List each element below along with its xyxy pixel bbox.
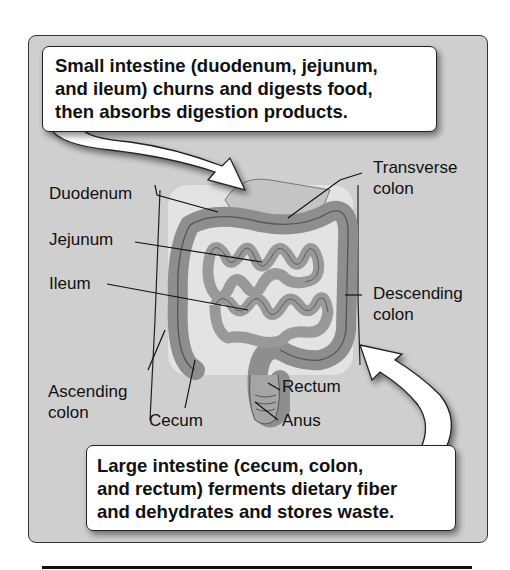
large-intestine-callout: Large intestine (cecum, colon, and rectu… [86, 445, 456, 531]
small-intestine-callout: Small intestine (duodenum, jejunum, and … [42, 46, 437, 132]
callout-line: then absorbs digestion products. [55, 100, 436, 123]
label-duodenum: Duodenum [49, 183, 132, 204]
label-ileum: Ileum [49, 273, 91, 294]
label-ascending-colon: Ascending colon [48, 381, 127, 423]
horizontal-rule [42, 566, 472, 569]
label-transverse-colon: Transverse colon [373, 157, 457, 199]
label-jejunum: Jejunum [49, 229, 113, 250]
callout-line: and rectum) ferments dietary fiber [97, 477, 455, 500]
label-cecum: Cecum [149, 410, 203, 431]
label-rectum: Rectum [282, 376, 341, 397]
callout-line: and ileum) churns and digests food, [55, 77, 436, 100]
label-descending-colon: Descending colon [373, 283, 463, 325]
callout-line: Small intestine (duodenum, jejunum, [55, 54, 436, 77]
callout-line: Large intestine (cecum, colon, [97, 454, 455, 477]
callout-line: and dehydrates and stores waste. [97, 500, 455, 523]
label-anus: Anus [282, 410, 321, 431]
